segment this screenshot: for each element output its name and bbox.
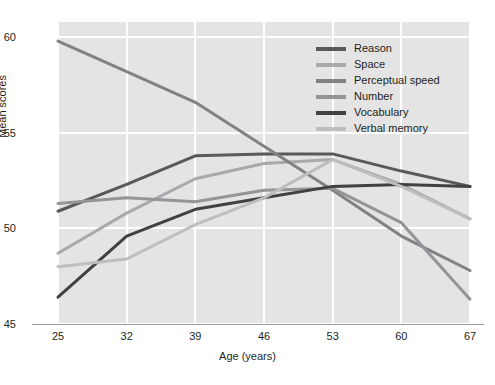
x-tick-label: 60 xyxy=(381,330,421,342)
x-tick-label: 67 xyxy=(450,330,490,342)
legend-item: Reason xyxy=(316,42,440,55)
x-tick-label: 32 xyxy=(107,330,147,342)
x-axis-line xyxy=(32,324,484,325)
legend-item: Perceptual speed xyxy=(316,74,440,87)
legend-item: Number xyxy=(316,90,440,103)
y-axis-label: Mean scores xyxy=(0,75,8,138)
legend-label: Vocabulary xyxy=(354,106,408,119)
y-tick-label: 60 xyxy=(0,31,16,43)
legend-label: Reason xyxy=(354,42,392,55)
x-tick-label: 53 xyxy=(313,330,353,342)
x-tick-label: 39 xyxy=(175,330,215,342)
x-axis-label: Age (years) xyxy=(0,350,495,362)
legend-color-swatch xyxy=(316,79,346,83)
legend-color-swatch xyxy=(316,47,346,51)
legend-item: Space xyxy=(316,58,440,71)
legend-color-swatch xyxy=(316,127,346,131)
legend-label: Number xyxy=(354,90,393,103)
chart-legend: ReasonSpacePerceptual speedNumberVocabul… xyxy=(316,42,440,135)
legend-color-swatch xyxy=(316,111,346,115)
line-chart-figure: 45505560 25323946536067 Mean scores Age … xyxy=(0,0,495,385)
legend-color-swatch xyxy=(316,63,346,67)
legend-label: Verbal memory xyxy=(354,122,428,135)
legend-label: Space xyxy=(354,58,385,71)
legend-color-swatch xyxy=(316,95,346,99)
series-line xyxy=(58,160,470,267)
x-tick-label: 46 xyxy=(244,330,284,342)
x-tick-label: 25 xyxy=(38,330,78,342)
y-tick-label: 45 xyxy=(0,318,16,330)
legend-item: Vocabulary xyxy=(316,106,440,119)
y-tick-label: 50 xyxy=(0,222,16,234)
legend-item: Verbal memory xyxy=(316,122,440,135)
legend-label: Perceptual speed xyxy=(354,74,440,87)
